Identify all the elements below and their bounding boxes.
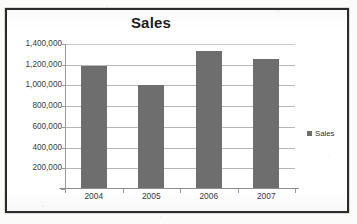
gridline bbox=[65, 44, 295, 45]
x-axis-tick-label: 2007 bbox=[238, 192, 296, 200]
y-axis-tick bbox=[61, 85, 66, 86]
y-axis-tick-label: 1,000,000 bbox=[10, 81, 62, 89]
y-axis-labels: -200,000400,000600,000800,0001,000,0001,… bbox=[7, 44, 62, 189]
bar[interactable] bbox=[196, 51, 222, 188]
y-axis-tick bbox=[61, 148, 66, 149]
y-axis-tick bbox=[61, 65, 66, 66]
y-axis-tick bbox=[61, 168, 66, 169]
x-axis-tick-label: 2006 bbox=[180, 192, 238, 200]
legend-entry-label: Sales bbox=[315, 130, 335, 138]
y-axis-tick bbox=[61, 127, 66, 128]
y-axis-tick-label: 200,000 bbox=[10, 164, 62, 172]
chart-legend: Sales bbox=[307, 130, 335, 138]
plot-area bbox=[65, 44, 295, 189]
bar[interactable] bbox=[138, 85, 164, 188]
bar[interactable] bbox=[253, 59, 279, 189]
chart-title: Sales bbox=[7, 14, 295, 31]
y-axis-tick-label: 400,000 bbox=[10, 144, 62, 152]
y-axis-tick-label: 1,400,000 bbox=[10, 40, 62, 48]
x-axis-tick-label: 2005 bbox=[123, 192, 181, 200]
legend-square-icon bbox=[307, 131, 312, 136]
y-axis-tick bbox=[61, 106, 66, 107]
y-axis-tick-label: 600,000 bbox=[10, 123, 62, 131]
y-axis-line bbox=[65, 44, 66, 189]
y-axis-tick-label: 800,000 bbox=[10, 102, 62, 110]
y-axis-tick bbox=[61, 44, 66, 45]
chart-frame: Sales -200,000400,000600,000800,0001,000… bbox=[5, 8, 349, 213]
bar[interactable] bbox=[81, 66, 107, 188]
x-axis-tick-label: 2004 bbox=[65, 192, 123, 200]
y-axis-tick-label: - bbox=[10, 185, 62, 193]
y-axis-tick-label: 1,200,000 bbox=[10, 61, 62, 69]
x-axis-tick bbox=[295, 189, 296, 193]
x-axis-labels: 2004200520062007 bbox=[65, 192, 295, 208]
chart-screenshot: Sales -200,000400,000600,000800,0001,000… bbox=[0, 0, 357, 224]
